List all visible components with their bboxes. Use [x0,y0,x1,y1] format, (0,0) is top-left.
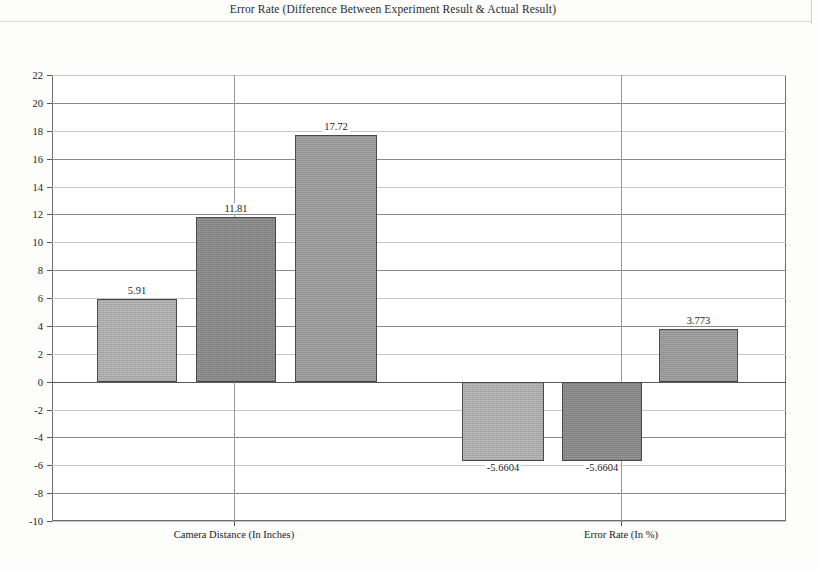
bar-value-label: -5.6604 [485,462,521,473]
y-axis-tick-label: -2 [5,404,43,415]
y-axis-tick-label: 22 [5,70,43,81]
gridline [52,382,786,383]
bar [295,135,377,382]
y-axis-tick-label: 10 [5,237,43,248]
y-axis-tick-label: 4 [5,320,43,331]
gridline [52,465,786,466]
y-axis-tick-mark [47,214,52,215]
bar [562,382,642,461]
y-axis-tick-label: -8 [5,488,43,499]
y-axis-tick-mark [47,410,52,411]
y-axis-tick-mark [47,326,52,327]
gridline [52,214,786,215]
bar [97,299,177,381]
gridline [52,493,786,494]
bar [462,382,544,461]
title-band: Error Rate (Difference Between Experimen… [0,0,820,28]
y-axis-tick-mark [47,187,52,188]
y-axis-tick-label: 2 [5,348,43,359]
y-axis-tick-mark [47,103,52,104]
bar-value-label: 5.91 [126,285,148,296]
chart-title: Error Rate (Difference Between Experimen… [0,3,786,15]
y-axis-tick-label: 18 [5,125,43,136]
gridline [52,410,786,411]
title-underline-rule [0,21,812,22]
y-axis-tick-mark [47,242,52,243]
bar [196,217,276,382]
y-axis-tick-mark [47,75,52,76]
y-axis-tick-label: 16 [5,153,43,164]
chart-plot-area: 2220181614121086420-2-4-6-8-10 5.9111.81… [52,75,786,521]
y-axis-tick-label: 12 [5,209,43,220]
gridline [52,131,786,132]
y-axis-tick-mark [47,493,52,494]
y-axis-tick-mark [47,354,52,355]
gridline [52,159,786,160]
x-axis-tick-mark [234,521,235,526]
y-axis-tick-mark [47,382,52,383]
y-axis-tick-label: 0 [5,376,43,387]
y-axis-tick-label: 20 [5,97,43,108]
y-axis-tick-mark [47,521,52,522]
gridline [52,103,786,104]
y-axis-tick-label: -4 [5,432,43,443]
y-axis-tick-label: -10 [5,516,43,527]
x-axis-tick-mark [621,521,622,526]
y-axis-tick-mark [47,437,52,438]
gridline [52,242,786,243]
y-axis-tick-mark [47,131,52,132]
y-axis-tick-label: 14 [5,181,43,192]
y-axis-tick-label: 6 [5,293,43,304]
x-axis-category-label: Camera Distance (In Inches) [174,529,294,540]
y-axis-tick-mark [47,465,52,466]
bar-value-label: 17.72 [322,121,350,132]
bar [659,329,738,382]
y-axis-tick-mark [47,270,52,271]
bar-value-label: 3.773 [685,315,713,326]
gridline [52,437,786,438]
gridline [52,270,786,271]
gridline [52,75,786,76]
gridline [52,521,786,522]
bar-value-label: 11.81 [222,203,249,214]
bar-value-label: -5.6604 [584,462,620,473]
x-axis-category-label: Error Rate (In %) [584,529,658,540]
y-axis-tick-label: 8 [5,265,43,276]
gridline [52,187,786,188]
y-axis-tick-mark [47,159,52,160]
y-axis-tick-mark [47,298,52,299]
page-edge-rule [811,0,812,24]
y-axis-tick-label: -6 [5,460,43,471]
